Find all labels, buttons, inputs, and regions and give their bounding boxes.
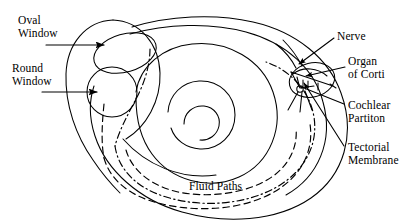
- nerve-bundle: [276, 40, 302, 68]
- label-oval-window: Oval Window: [18, 14, 58, 39]
- leader-nerve: [299, 38, 334, 64]
- label-organ-of-corti: Organ of Corti: [348, 55, 385, 80]
- label-cochlear-partition: Cochlear Partiton: [348, 99, 390, 124]
- cochlea-diagram-figure: Oval Window Round Window Nerve Organ of …: [0, 0, 414, 221]
- scala-tympani-fluid-path: [102, 104, 311, 209]
- label-nerve: Nerve: [337, 30, 366, 43]
- cochlea-inner-wall: [123, 25, 326, 195]
- leader-tectorial-membrane: [304, 83, 344, 146]
- label-fluid-paths: Fluid Paths: [189, 180, 242, 193]
- vestibule-outline: [66, 20, 160, 193]
- organ-of-corti-inset: [286, 58, 339, 112]
- label-round-window: Round Window: [12, 62, 52, 87]
- label-tectorial-membrane: Tectorial Membrane: [348, 141, 399, 166]
